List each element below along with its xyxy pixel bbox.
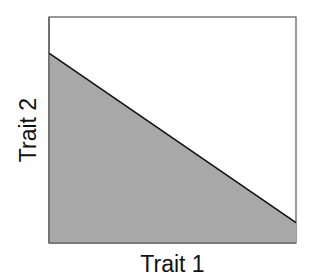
x-axis-label: Trait 1 (49, 252, 296, 276)
y-axis-label: Trait 2 (16, 98, 40, 162)
tradeoff-plot (0, 0, 311, 276)
